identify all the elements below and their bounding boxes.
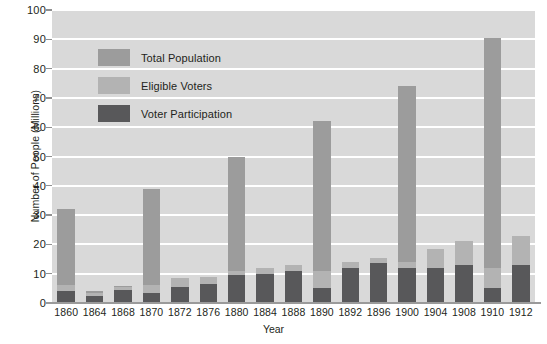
segment-voter-participation [285, 271, 303, 303]
gridline-100 [52, 9, 535, 11]
segment-voter-participation [427, 268, 445, 303]
legend-swatch-icon [98, 105, 130, 122]
legend-label: Eligible Voters [141, 80, 212, 92]
y-tick-mark-70 [46, 97, 52, 98]
y-tick-mark-10 [46, 273, 52, 274]
legend-label: Total Population [141, 52, 221, 64]
legend-item-1: Eligible Voters [98, 76, 308, 95]
segment-voter-participation [512, 265, 530, 303]
y-tick-mark-60 [46, 127, 52, 128]
bar-1868 [114, 286, 132, 303]
bar-1910 [484, 38, 502, 303]
x-tick-label-1890: 1890 [310, 306, 334, 318]
segment-voter-participation [398, 268, 416, 303]
y-tick-mark-40 [46, 185, 52, 186]
legend-item-0: Total Population [98, 48, 308, 67]
segment-voter-participation [313, 288, 331, 303]
y-tick-label-80: 80 [14, 63, 46, 75]
legend-swatch-icon [98, 77, 130, 94]
x-tick-label-1900: 1900 [395, 306, 419, 318]
x-tick-label-1872: 1872 [168, 306, 192, 318]
bar-1864 [86, 291, 104, 303]
y-tick-label-20: 20 [14, 238, 46, 250]
y-tick-label-70: 70 [14, 92, 46, 104]
segment-voter-participation [455, 265, 473, 303]
segment-total-population [484, 38, 502, 303]
segment-voter-participation [228, 275, 246, 303]
segment-voter-participation [484, 288, 502, 303]
legend-swatch-icon [98, 49, 130, 66]
y-tick-label-100: 100 [14, 4, 46, 16]
bar-1890 [313, 121, 331, 303]
legend: Total PopulationEligible VotersVoter Par… [98, 48, 308, 132]
bar-1876 [200, 277, 218, 303]
legend-label: Voter Participation [141, 108, 232, 120]
segment-voter-participation [342, 268, 360, 303]
bar-1892 [342, 262, 360, 303]
gridline-50 [52, 156, 535, 158]
bar-1904 [427, 249, 445, 303]
x-tick-label-1870: 1870 [140, 306, 164, 318]
y-tick-label-50: 50 [14, 151, 46, 163]
segment-voter-participation [57, 291, 75, 303]
x-tick-label-1860: 1860 [54, 306, 78, 318]
y-tick-label-0: 0 [14, 297, 46, 309]
y-tick-label-40: 40 [14, 180, 46, 192]
bar-1880 [228, 157, 246, 304]
bar-1884 [256, 268, 274, 303]
gridline-30 [52, 214, 535, 216]
gridline-40 [52, 185, 535, 187]
x-tick-label-1904: 1904 [424, 306, 448, 318]
x-tick-label-1892: 1892 [338, 306, 362, 318]
y-tick-mark-30 [46, 214, 52, 215]
x-tick-label-1864: 1864 [83, 306, 107, 318]
x-tick-label-1884: 1884 [253, 306, 277, 318]
x-tick-label-1896: 1896 [367, 306, 391, 318]
x-tick-label-1880: 1880 [225, 306, 249, 318]
x-tick-label-1912: 1912 [509, 306, 533, 318]
bar-1896 [370, 258, 388, 303]
y-tick-label-90: 90 [14, 33, 46, 45]
bar-1888 [285, 265, 303, 303]
y-tick-mark-50 [46, 156, 52, 157]
bar-1872 [171, 278, 189, 303]
segment-voter-participation [256, 274, 274, 303]
y-tick-label-10: 10 [14, 268, 46, 280]
x-axis-line [46, 302, 541, 304]
bar-1860 [57, 209, 75, 303]
legend-item-2: Voter Participation [98, 104, 308, 123]
x-axis-title: Year [0, 323, 547, 335]
y-tick-label-30: 30 [14, 209, 46, 221]
y-tick-label-60: 60 [14, 121, 46, 133]
segment-voter-participation [171, 287, 189, 303]
gridline-90 [52, 38, 535, 40]
x-tick-label-1908: 1908 [452, 306, 476, 318]
x-tick-label-1888: 1888 [282, 306, 306, 318]
y-axis-tick-labels: 0102030405060708090100 [14, 0, 46, 344]
y-tick-mark-100 [46, 9, 52, 10]
y-tick-mark-90 [46, 39, 52, 40]
x-tick-label-1876: 1876 [196, 306, 220, 318]
bar-1900 [398, 86, 416, 303]
segment-voter-participation [370, 263, 388, 303]
y-tick-mark-20 [46, 244, 52, 245]
y-tick-mark-80 [46, 68, 52, 69]
bar-1912 [512, 236, 530, 303]
chart-container: Number of People (Millions) 010203040506… [0, 0, 547, 344]
segment-voter-participation [200, 284, 218, 303]
bar-1908 [455, 241, 473, 303]
segment-voter-participation [114, 290, 132, 303]
bar-1870 [143, 189, 161, 303]
x-tick-label-1910: 1910 [480, 306, 504, 318]
x-tick-label-1868: 1868 [111, 306, 135, 318]
